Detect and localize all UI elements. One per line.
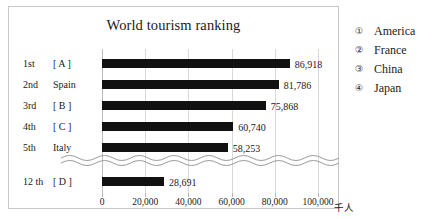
row-category: [ D ] <box>53 176 99 187</box>
row-rank: 2nd <box>23 79 49 90</box>
bar <box>102 80 279 89</box>
bar-rows: 86,91881,78675,86860,74058,25328,691 <box>102 49 318 193</box>
bar <box>102 122 233 131</box>
legend-marker-icon: ④ <box>352 79 366 98</box>
bar <box>102 101 266 110</box>
row-category: [ B ] <box>53 100 99 111</box>
bar-value-label: 28,691 <box>164 176 197 187</box>
row-label: 4th[ C ] <box>9 121 102 133</box>
legend: ①America②France③China④Japan <box>352 22 436 98</box>
plot-area: 86,91881,78675,86860,74058,25328,691 <box>102 49 318 193</box>
bar <box>102 59 290 68</box>
chart-frame: World tourism ranking 1st[ A ]2ndSpain3r… <box>8 6 339 209</box>
legend-item: ②France <box>352 41 436 60</box>
x-tick-label: 60,000 <box>219 197 245 207</box>
legend-item: ③China <box>352 60 436 79</box>
row-label: 2ndSpain <box>9 79 102 91</box>
row-rank: 4th <box>23 121 49 132</box>
x-tick-label: 20,000 <box>132 197 158 207</box>
x-tick-label: 40,000 <box>175 197 201 207</box>
legend-marker-icon: ② <box>352 41 366 60</box>
bar <box>102 143 228 152</box>
bar-value-label: 75,868 <box>266 100 299 111</box>
axis-break-wave <box>61 153 339 167</box>
legend-label: France <box>374 41 407 60</box>
legend-item: ①America <box>352 22 436 41</box>
legend-item: ④Japan <box>352 79 436 98</box>
row-label: 12 th[ D ] <box>9 176 102 188</box>
row-rank: 3rd <box>23 100 49 111</box>
bar <box>102 177 164 186</box>
row-label-column: 1st[ A ]2ndSpain3rd[ B ]4th[ C ]5thItaly… <box>9 49 102 193</box>
bar-value-label: 81,786 <box>279 79 312 90</box>
bar-value-label: 86,918 <box>290 58 323 69</box>
legend-label: America <box>374 22 415 41</box>
row-rank: 1st <box>23 58 49 69</box>
bar-value-label: 58,253 <box>228 142 261 153</box>
axis-unit-label: 千人 <box>334 200 354 214</box>
legend-marker-icon: ① <box>352 22 366 41</box>
row-label: 1st[ A ] <box>9 58 102 70</box>
chart-title: World tourism ranking <box>9 17 338 34</box>
chart-screenshot: World tourism ranking 1st[ A ]2ndSpain3r… <box>0 0 441 219</box>
legend-marker-icon: ③ <box>352 60 366 79</box>
row-category: [ A ] <box>53 58 99 69</box>
x-tick-label: 0 <box>100 197 105 207</box>
legend-label: Japan <box>374 79 401 98</box>
row-rank: 5th <box>23 142 49 153</box>
x-tick-label: 80,000 <box>262 197 288 207</box>
row-category: [ C ] <box>53 121 99 132</box>
row-category: Italy <box>53 142 99 153</box>
x-tick-label: 100,000 <box>303 197 334 207</box>
row-category: Spain <box>53 79 99 90</box>
row-rank: 12 th <box>23 176 49 187</box>
gridline <box>318 49 319 193</box>
row-label: 3rd[ B ] <box>9 100 102 112</box>
bar-value-label: 60,740 <box>233 121 266 132</box>
legend-label: China <box>374 60 403 79</box>
x-axis-labels: 千人 020,00040,00060,00080,000100,000 <box>9 197 340 213</box>
